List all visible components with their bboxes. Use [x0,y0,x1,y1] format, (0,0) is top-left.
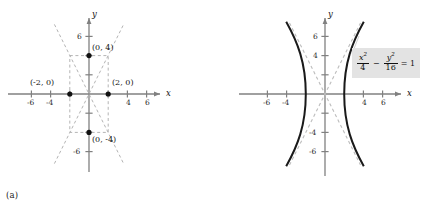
point-marker-0-neg4 [86,130,91,135]
x-axis-arrow [395,92,401,97]
point-marker-2-0 [106,91,111,96]
x-tick-label-neg4: -4 [282,99,289,107]
y-axis-label: y [328,10,333,19]
figure-root: x y -6 -4 4 6 6 -6 (0, 4) (-2, 0) (2, 0)… [0,0,423,211]
panel-b-hyperbola-graph: x y -6 -4 4 6 6 4 -4 -6 x2 4 − y2 16 = 1 [211,0,423,211]
axis-group-b [239,18,401,176]
numerator-x-squared: x2 [357,54,369,63]
x-tick-label-neg6: -6 [27,99,34,107]
fraction-x-squared-over-4: x2 4 [357,54,369,73]
point-marker-0-4 [86,53,91,58]
x-axis-label: x [166,89,171,98]
equals-one: = 1 [401,59,415,68]
point-label-neg2-0: (-2, 0) [30,79,54,87]
y-tick-label-neg4: -4 [309,129,316,137]
y-tick-label-neg6: -6 [309,148,316,156]
denominator-16: 16 [384,64,398,73]
x-tick-label-4: 4 [362,99,367,107]
x-tick-label-neg4: -4 [46,99,53,107]
equation-callout: x2 4 − y2 16 = 1 [352,48,420,78]
point-label-2-0: (2, 0) [112,79,134,87]
y-axis-arrow [87,18,92,24]
y-tick-label-6: 6 [77,33,82,41]
caption-a: (a) [6,190,18,200]
x-axis-label: x [407,89,412,98]
point-label-0-neg4: (0, -4) [92,136,116,144]
fraction-y-squared-over-16: y2 16 [384,54,398,73]
y-tick-label-4: 4 [313,52,318,60]
y-axis-arrow [323,18,328,24]
panel-a-hyperbola-construction: x y -6 -4 4 6 6 -6 (0, 4) (-2, 0) (2, 0)… [0,0,211,211]
denominator-4: 4 [358,64,367,73]
y-tick-label-6: 6 [313,33,318,41]
minus-operator: − [372,59,381,68]
x-tick-label-4: 4 [126,99,131,107]
x-tick-label-6: 6 [145,99,150,107]
y-axis-label: y [92,10,97,19]
point-marker-neg2-0 [67,91,72,96]
y-tick-label-neg6: -6 [73,148,80,156]
numerator-y-squared: y2 [385,54,397,63]
x-tick-label-neg6: -6 [263,99,270,107]
x-tick-label-6: 6 [381,99,386,107]
x-axis-arrow [154,92,160,97]
point-label-0-4: (0, 4) [92,44,114,52]
